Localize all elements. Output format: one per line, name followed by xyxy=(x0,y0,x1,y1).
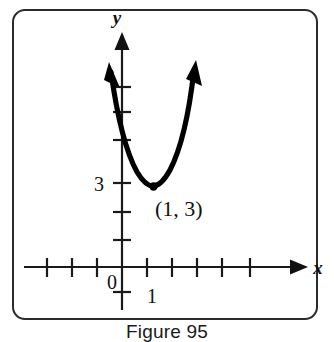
y-axis-label: y xyxy=(111,7,122,28)
vertex-point-marker xyxy=(149,182,157,190)
vertex-coordinate-label: (1, 3) xyxy=(155,196,203,221)
x-axis-arrow-icon xyxy=(290,260,308,275)
figure-caption: Figure 95 xyxy=(0,322,334,342)
parabola-right-arrow-icon xyxy=(186,60,202,86)
x-tick-label-1: 1 xyxy=(147,285,157,307)
graph-plot: y x 3 0 1 (1, 3) xyxy=(0,0,334,342)
y-tick-label-3: 3 xyxy=(94,173,104,195)
figure-container: y x 3 0 1 (1, 3) Figure 95 xyxy=(0,0,334,342)
y-axis-arrow-icon xyxy=(115,32,130,50)
x-axis-label: x xyxy=(312,257,323,278)
origin-label: 0 xyxy=(107,271,117,293)
